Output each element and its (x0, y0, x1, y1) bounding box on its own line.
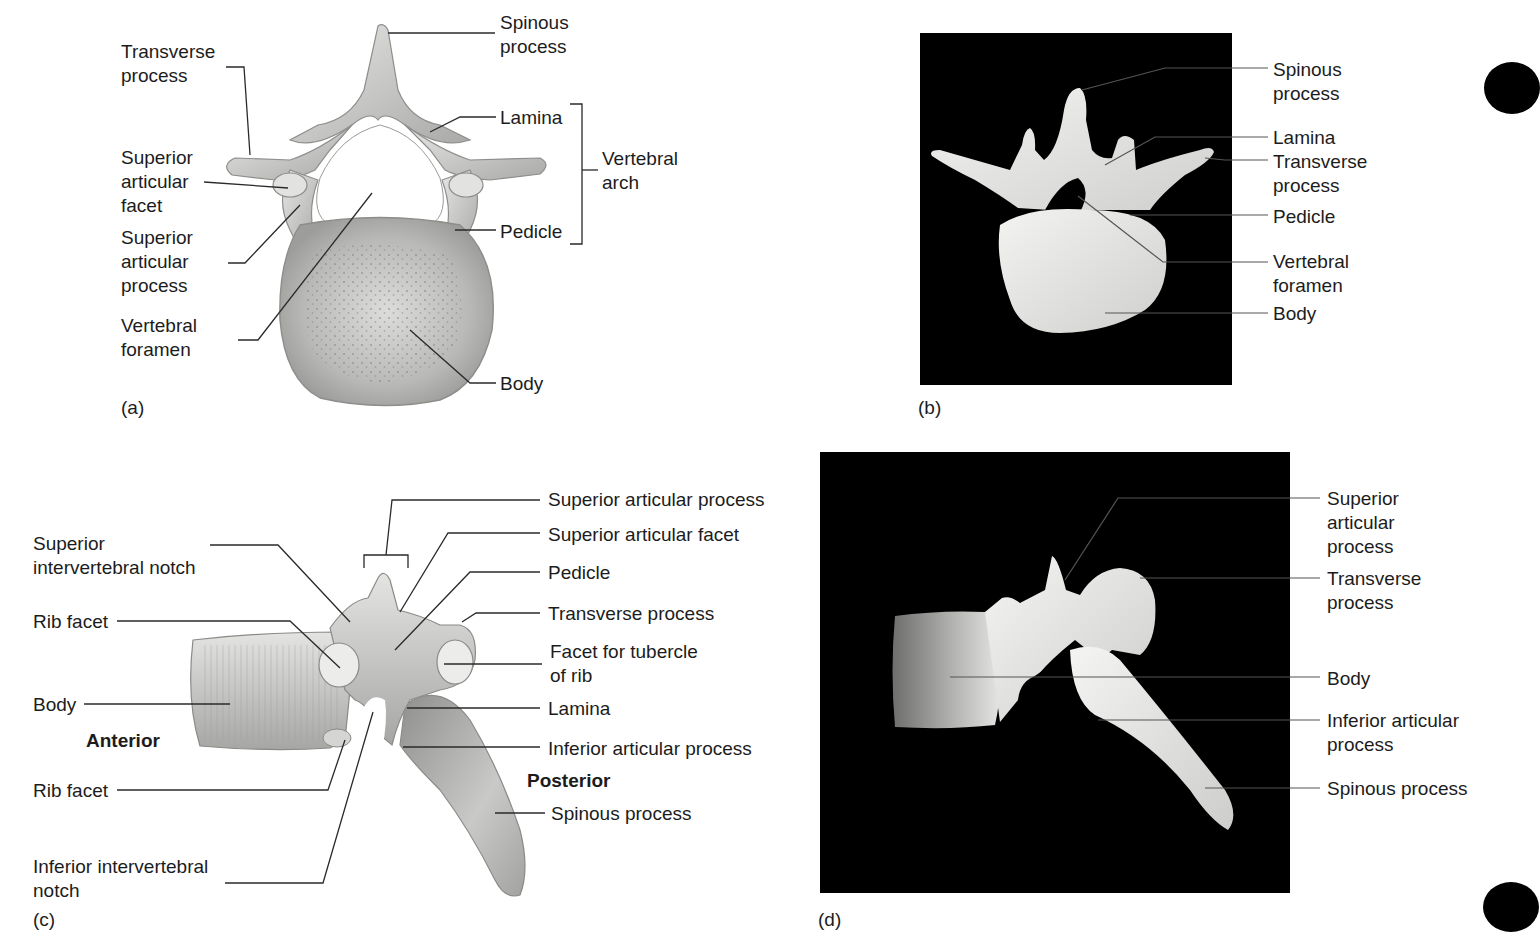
binder-hole-bottom-mark (1483, 882, 1539, 932)
panel-letter-d: (d) (818, 909, 841, 931)
binder-hole-top-mark (1484, 62, 1540, 114)
label-d-inferior-articular-process: Inferior articular process (1327, 709, 1459, 757)
label-d-body: Body (1327, 667, 1370, 691)
label-d-spinous-process: Spinous process (1327, 777, 1467, 801)
label-d-transverse-process: Transverse process (1327, 567, 1421, 615)
label-d-superior-articular-process: Superior articular process (1327, 487, 1399, 559)
